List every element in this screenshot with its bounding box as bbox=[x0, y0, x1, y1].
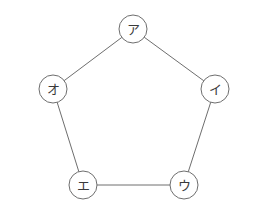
edges bbox=[53, 29, 215, 185]
node-o: オ bbox=[39, 75, 67, 103]
node-e: エ bbox=[69, 171, 97, 199]
node-label: ウ bbox=[178, 178, 191, 193]
node-u: ウ bbox=[170, 171, 198, 199]
edge-e-o bbox=[53, 89, 83, 185]
nodes: ア イ ウ エ オ bbox=[39, 15, 229, 199]
node-label: イ bbox=[209, 82, 222, 97]
edge-a-i bbox=[133, 29, 215, 89]
edge-i-u bbox=[184, 89, 215, 185]
edge-o-a bbox=[53, 29, 133, 89]
node-label: エ bbox=[77, 178, 90, 193]
node-label: ア bbox=[127, 22, 140, 37]
node-i: イ bbox=[201, 75, 229, 103]
node-a: ア bbox=[119, 15, 147, 43]
node-label: オ bbox=[47, 82, 60, 97]
pentagon-graph: ア イ ウ エ オ bbox=[0, 0, 255, 214]
